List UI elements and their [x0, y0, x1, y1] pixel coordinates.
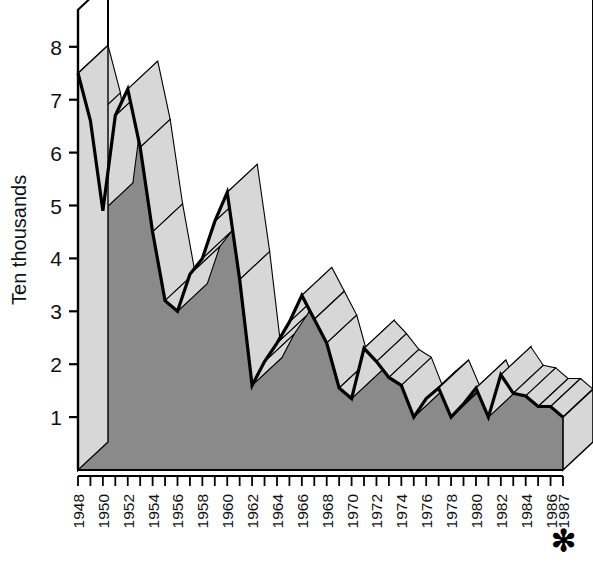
- x-tick-label-1954: 1954: [145, 494, 162, 529]
- x-tick-label-1950: 1950: [95, 494, 112, 529]
- y-tick-labels-group: 12345678: [50, 36, 62, 429]
- chart-figure: 12345678 1948195019521954195619581960196…: [0, 0, 593, 564]
- y-tick-label-1: 1: [50, 406, 62, 429]
- annotations-group: ✻: [551, 524, 576, 557]
- footnote-asterisk: ✻: [551, 524, 576, 557]
- axis-titles-group: Ten thousands: [8, 175, 30, 305]
- y-tick-label-4: 4: [50, 247, 62, 270]
- x-tick-label-1972: 1972: [368, 494, 385, 528]
- x-tick-label-1982: 1982: [493, 494, 510, 528]
- x-tick-label-1980: 1980: [468, 494, 485, 529]
- x-tick-label-1958: 1958: [194, 494, 211, 528]
- x-tick-label-1974: 1974: [393, 494, 410, 529]
- y-tick-label-6: 6: [50, 142, 62, 165]
- x-tick-label-1960: 1960: [219, 494, 236, 529]
- y-tick-label-8: 8: [50, 36, 62, 59]
- y-tick-label-3: 3: [50, 300, 62, 323]
- x-tick-label-1984: 1984: [518, 494, 535, 529]
- y-tick-label-2: 2: [50, 353, 62, 376]
- x-tick-label-1970: 1970: [344, 494, 361, 529]
- x-tick-label-1966: 1966: [294, 494, 311, 528]
- x-tick-label-1978: 1978: [443, 494, 460, 528]
- left-end-cap: [78, 45, 108, 470]
- x-tick-label-1956: 1956: [169, 494, 186, 528]
- x-tick-label-1976: 1976: [418, 494, 435, 528]
- y-tick-label-5: 5: [50, 195, 62, 218]
- x-tick-label-1948: 1948: [70, 494, 87, 528]
- y-tick-label-7: 7: [50, 89, 62, 112]
- x-tick-label-1968: 1968: [319, 494, 336, 528]
- y-axis-title: Ten thousands: [8, 175, 30, 305]
- x-tick-label-1964: 1964: [269, 494, 286, 529]
- x-tick-label-1952: 1952: [120, 494, 137, 528]
- x-tick-labels-group: 1948195019521954195619581960196219641966…: [70, 494, 572, 529]
- area-chart-canvas: 12345678 1948195019521954195619581960196…: [0, 0, 593, 564]
- x-tick-label-1962: 1962: [244, 494, 261, 528]
